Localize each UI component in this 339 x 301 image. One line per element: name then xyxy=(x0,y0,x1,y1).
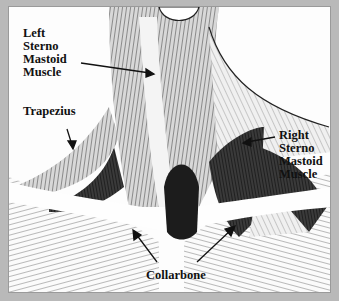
illustration-frame: Left Sterno Mastoid Muscle Trapezius Rig… xyxy=(0,0,339,301)
label-collarbone: Collarbone xyxy=(146,269,206,282)
label-right-sterno-mastoid: Right Sterno Mastoid Muscle xyxy=(279,129,323,181)
illustration-canvas: Left Sterno Mastoid Muscle Trapezius Rig… xyxy=(8,6,331,293)
trapezius-arrowhead xyxy=(68,141,76,149)
label-left-sterno-mastoid: Left Sterno Mastoid Muscle xyxy=(23,27,67,79)
label-trapezius: Trapezius xyxy=(23,105,76,118)
sternal-notch xyxy=(164,165,199,240)
